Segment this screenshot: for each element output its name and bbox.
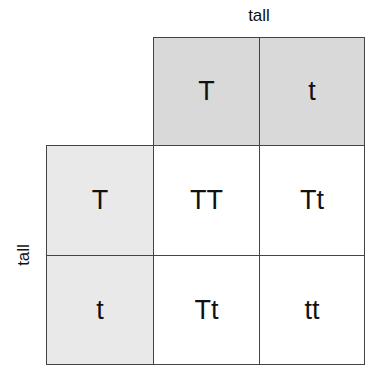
left-allele-1: T: [46, 145, 154, 256]
side-parent-label: tall: [14, 244, 34, 266]
genotype-cell-2-2: tt: [259, 255, 365, 365]
genotype-cell-1-1: TT: [153, 145, 260, 256]
top-allele-2: t: [259, 37, 365, 146]
genotype-cell-1-2: Tt: [259, 145, 365, 256]
top-allele-1: T: [153, 37, 260, 146]
top-parent-label: tall: [248, 6, 270, 26]
left-allele-2: t: [46, 255, 154, 365]
genotype-cell-2-1: Tt: [153, 255, 260, 365]
